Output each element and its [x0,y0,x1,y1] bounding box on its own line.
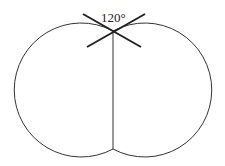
angle-label: 120° [101,11,126,24]
right-bubble-arc [113,23,212,157]
left-bubble-arc [14,23,113,157]
